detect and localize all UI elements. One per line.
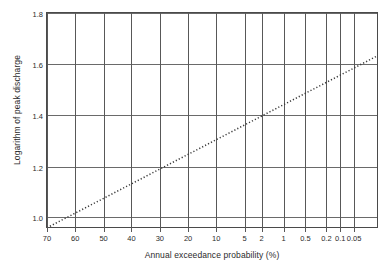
x-tick-label: 0.05 — [347, 234, 362, 243]
x-tick-label: 5 — [243, 234, 247, 243]
x-axis-title: Annual exceedance probability (%) — [46, 250, 378, 260]
y-tick-label: 1.6 — [33, 60, 43, 69]
x-tick-30 — [160, 227, 161, 232]
y-tick-label: 1.0 — [33, 214, 43, 223]
x-tick-label: 0.5 — [300, 234, 310, 243]
x-tick-1 — [284, 227, 285, 232]
x-tick-label: 0.2 — [321, 234, 331, 243]
y-tick-label: 1.8 — [33, 10, 43, 19]
x-tick-10 — [216, 227, 217, 232]
frequency-analysis-chart: Logarithm of peak discharge 1.8 1.6 1.4 … — [0, 0, 387, 269]
x-tick-70 — [47, 227, 48, 232]
plot-area: 1.8 1.6 1.4 1.2 1.0 70 60 50 40 30 2 — [46, 12, 378, 228]
x-tick-label: 20 — [184, 234, 192, 243]
x-tick-label: 50 — [99, 234, 107, 243]
y-tick-label: 1.2 — [33, 163, 43, 172]
fitted-line-path — [47, 55, 377, 227]
x-tick-label: 40 — [127, 234, 135, 243]
x-tick-label: 60 — [71, 234, 79, 243]
x-tick-50 — [104, 227, 105, 232]
x-tick-label: 10 — [212, 234, 220, 243]
x-tick-label: 2 — [260, 234, 264, 243]
x-tick-40 — [131, 227, 132, 232]
y-tick-label: 1.4 — [33, 112, 43, 121]
x-tick-label: 70 — [43, 234, 51, 243]
x-tick-60 — [75, 227, 76, 232]
x-tick-0-2 — [326, 227, 327, 232]
y-axis-title: Logarithm of peak discharge — [12, 0, 22, 220]
x-tick-2 — [262, 227, 263, 232]
fitted-frequency-line — [47, 13, 377, 227]
x-tick-label: 1 — [282, 234, 286, 243]
x-tick-0-05 — [354, 227, 355, 232]
series-layer — [47, 13, 377, 227]
x-tick-20 — [188, 227, 189, 232]
x-tick-0-5 — [305, 227, 306, 232]
x-tick-5 — [245, 227, 246, 232]
x-tick-label: 30 — [156, 234, 164, 243]
x-tick-label: 0.1 — [335, 234, 345, 243]
x-tick-0-1 — [340, 227, 341, 232]
